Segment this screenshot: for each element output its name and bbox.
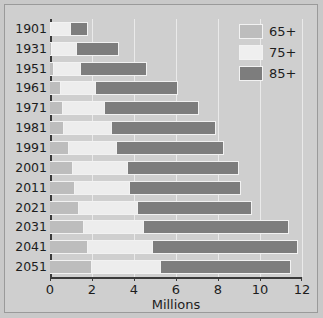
y-axis-category-labels: 1901193119511961197119811991200120112021… bbox=[5, 19, 47, 277]
y-axis-tick-label: 1951 bbox=[5, 62, 47, 76]
bar-segment-85plus[interactable] bbox=[105, 101, 200, 115]
chart-legend: 65+ 75+ 85+ bbox=[235, 19, 309, 88]
bar-row[interactable] bbox=[50, 101, 199, 115]
x-axis-tick bbox=[176, 277, 177, 281]
bar-segment-85plus[interactable] bbox=[130, 181, 241, 195]
y-axis-tick-label: 2051 bbox=[5, 260, 47, 274]
x-axis-tick-label: 4 bbox=[130, 282, 138, 297]
bar-segment-75plus[interactable] bbox=[54, 62, 81, 76]
bar-row[interactable] bbox=[50, 22, 88, 36]
y-axis-tick-label: 1981 bbox=[5, 121, 47, 135]
x-axis-tick-label: 12 bbox=[294, 282, 311, 297]
y-axis-tick-label: 1931 bbox=[5, 42, 47, 56]
bar-segment-65plus[interactable] bbox=[50, 121, 64, 135]
x-axis-tick-label: 2 bbox=[88, 282, 96, 297]
bar-row[interactable] bbox=[50, 121, 216, 135]
bar-segment-65plus[interactable] bbox=[50, 240, 88, 254]
bar-row[interactable] bbox=[50, 201, 252, 215]
bar-row[interactable] bbox=[50, 220, 289, 234]
bar-segment-85plus[interactable] bbox=[117, 141, 224, 155]
x-axis-tick bbox=[134, 277, 135, 281]
bar-row[interactable] bbox=[50, 161, 239, 175]
y-axis-tick-label: 1961 bbox=[5, 81, 47, 95]
legend-label-85: 85+ bbox=[269, 67, 296, 80]
bar-segment-85plus[interactable] bbox=[71, 22, 88, 36]
y-axis-tick-label: 1971 bbox=[5, 101, 47, 115]
bar-segment-75plus[interactable] bbox=[64, 121, 112, 135]
x-axis-tick bbox=[301, 277, 302, 281]
bar-segment-65plus[interactable] bbox=[50, 201, 79, 215]
chart-frame: 1901193119511961197119811991200120112021… bbox=[4, 4, 318, 313]
bar-segment-85plus[interactable] bbox=[138, 201, 251, 215]
bar-row[interactable] bbox=[50, 42, 119, 56]
bar-segment-75plus[interactable] bbox=[52, 42, 77, 56]
bar-segment-65plus[interactable] bbox=[50, 81, 61, 95]
x-axis-title: Millions bbox=[50, 297, 302, 312]
bar-segment-75plus[interactable] bbox=[51, 22, 71, 36]
legend-swatch-75 bbox=[239, 45, 263, 60]
bar-segment-75plus[interactable] bbox=[92, 260, 161, 274]
y-axis-tick-label: 2031 bbox=[5, 220, 47, 234]
bar-segment-75plus[interactable] bbox=[61, 81, 97, 95]
x-axis: 024681012 bbox=[50, 277, 302, 297]
y-axis-tick-label: 2001 bbox=[5, 161, 47, 175]
bar-segment-85plus[interactable] bbox=[128, 161, 239, 175]
bar-segment-75plus[interactable] bbox=[73, 161, 128, 175]
legend-item-65[interactable]: 65+ bbox=[239, 22, 305, 40]
bar-row[interactable] bbox=[50, 240, 298, 254]
x-axis-tick bbox=[260, 277, 261, 281]
bar-segment-85plus[interactable] bbox=[81, 62, 146, 76]
x-axis-tick-label: 10 bbox=[252, 282, 269, 297]
bar-segment-85plus[interactable] bbox=[153, 240, 298, 254]
bar-segment-85plus[interactable] bbox=[144, 220, 289, 234]
bar-row[interactable] bbox=[50, 62, 147, 76]
legend-item-75[interactable]: 75+ bbox=[239, 43, 305, 61]
legend-swatch-85 bbox=[239, 66, 263, 81]
bar-row[interactable] bbox=[50, 260, 291, 274]
bar-segment-65plus[interactable] bbox=[50, 101, 63, 115]
y-axis-tick-label: 2021 bbox=[5, 201, 47, 215]
bar-row[interactable] bbox=[50, 141, 224, 155]
bar-segment-65plus[interactable] bbox=[50, 220, 84, 234]
legend-swatch-65 bbox=[239, 24, 263, 39]
bar-segment-65plus[interactable] bbox=[50, 181, 75, 195]
bar-segment-65plus[interactable] bbox=[50, 161, 73, 175]
bar-segment-85plus[interactable] bbox=[96, 81, 178, 95]
bar-segment-75plus[interactable] bbox=[79, 201, 138, 215]
x-axis-tick bbox=[92, 277, 93, 281]
legend-label-65: 65+ bbox=[269, 25, 296, 38]
y-axis-tick-label: 2011 bbox=[5, 181, 47, 195]
legend-item-85[interactable]: 85+ bbox=[239, 64, 305, 82]
bar-segment-75plus[interactable] bbox=[63, 101, 105, 115]
bar-segment-75plus[interactable] bbox=[75, 181, 130, 195]
bar-segment-85plus[interactable] bbox=[161, 260, 291, 274]
bar-segment-65plus[interactable] bbox=[50, 141, 69, 155]
bar-segment-65plus[interactable] bbox=[50, 260, 92, 274]
bar-segment-75plus[interactable] bbox=[84, 220, 145, 234]
bar-segment-75plus[interactable] bbox=[69, 141, 117, 155]
y-axis-tick-label: 2041 bbox=[5, 240, 47, 254]
x-axis-tick-label: 0 bbox=[46, 282, 54, 297]
x-axis-tick bbox=[218, 277, 219, 281]
legend-label-75: 75+ bbox=[269, 46, 296, 59]
x-axis-tick-label: 6 bbox=[172, 282, 180, 297]
x-axis-tick bbox=[50, 277, 51, 281]
bar-segment-75plus[interactable] bbox=[88, 240, 153, 254]
x-axis-tick-label: 8 bbox=[214, 282, 222, 297]
y-axis-tick-label: 1991 bbox=[5, 141, 47, 155]
bar-row[interactable] bbox=[50, 81, 178, 95]
bar-segment-85plus[interactable] bbox=[112, 121, 216, 135]
bar-segment-85plus[interactable] bbox=[77, 42, 119, 56]
y-axis-tick-label: 1901 bbox=[5, 22, 47, 36]
bar-row[interactable] bbox=[50, 181, 241, 195]
